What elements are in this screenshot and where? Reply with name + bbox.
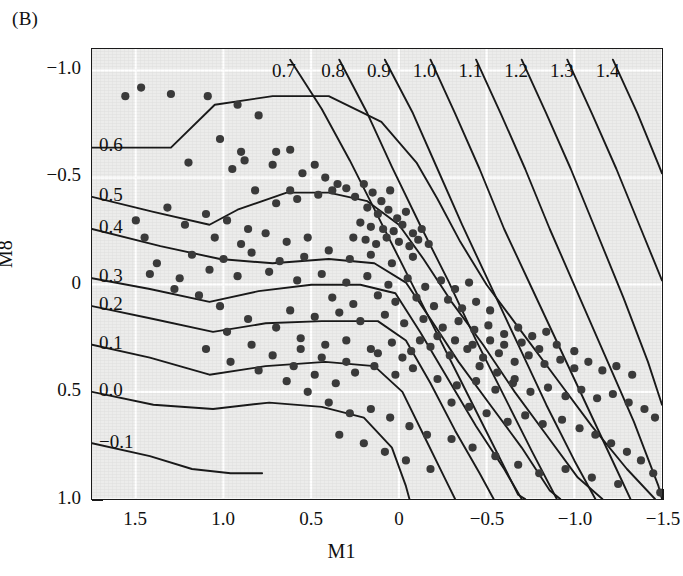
scatter-point	[283, 377, 291, 385]
x-tick-label: −1.0	[540, 508, 610, 530]
scatter-point	[458, 304, 466, 312]
y-tick-label: 0	[19, 272, 81, 294]
scatter-point	[470, 326, 478, 334]
scatter-point	[374, 349, 382, 357]
scatter-point	[453, 381, 461, 389]
scatter-point	[454, 317, 462, 325]
scatter-point	[447, 435, 455, 443]
scatter-point	[405, 242, 413, 250]
scatter-point	[390, 227, 398, 235]
scatter-point	[328, 186, 336, 194]
scatter-point	[342, 278, 350, 286]
scatter-point	[335, 308, 343, 316]
contour-line-1p3	[567, 60, 662, 281]
scatter-point	[346, 255, 354, 263]
scatter-point	[414, 236, 422, 244]
scatter-point	[226, 358, 234, 366]
scatter-point	[511, 358, 519, 366]
scatter-point	[451, 336, 459, 344]
contour-label-top: 1.2	[504, 60, 528, 82]
scatter-point	[407, 347, 415, 355]
contour-line-1p0	[430, 60, 630, 499]
scatter-point	[553, 341, 561, 349]
scatter-point	[377, 197, 385, 205]
scatter-point	[321, 173, 329, 181]
scatter-point	[202, 210, 210, 218]
contour-line-1p4	[613, 60, 662, 174]
scatter-point	[607, 439, 615, 447]
scatter-point	[356, 218, 364, 226]
scatter-point	[219, 255, 227, 263]
scatter-point	[283, 238, 291, 246]
scatter-point	[240, 156, 248, 164]
scatter-point	[211, 233, 219, 241]
scatter-point	[640, 405, 648, 413]
scatter-point	[493, 368, 501, 376]
scatter-point	[333, 180, 341, 188]
contour-label-top: 0.9	[367, 60, 391, 82]
scatter-point	[248, 341, 256, 349]
scatter-point	[297, 334, 305, 342]
scatter-point	[293, 195, 301, 203]
scatter-point	[188, 251, 196, 259]
scatter-point	[540, 360, 548, 368]
scatter-point	[121, 92, 129, 100]
scatter-point	[367, 251, 375, 259]
scatter-point	[286, 186, 294, 194]
scatter-point	[391, 371, 399, 379]
scatter-point	[304, 233, 312, 241]
scatter-point	[404, 274, 412, 282]
scatter-point	[342, 184, 350, 192]
scatter-point	[272, 148, 280, 156]
contour-label-top: 0.8	[321, 60, 345, 82]
scatter-point	[167, 90, 175, 98]
scatter-point	[349, 233, 357, 241]
scatter-point	[286, 306, 294, 314]
scatter-point	[363, 272, 371, 280]
scatter-point	[402, 456, 410, 464]
scatter-point	[535, 469, 543, 477]
scatter-point	[276, 257, 284, 265]
scatter-point	[468, 443, 476, 451]
scatter-point	[342, 358, 350, 366]
scatter-point	[146, 270, 154, 278]
scatter-point	[544, 383, 552, 391]
scatter-point	[223, 216, 231, 224]
scatter-point	[398, 221, 406, 229]
scatter-point	[416, 336, 424, 344]
scatter-point	[476, 362, 484, 370]
contour-label-left: 0.6	[99, 134, 123, 156]
scatter-point	[614, 480, 622, 488]
scatter-point	[205, 266, 213, 274]
scatter-point	[575, 424, 583, 432]
scatter-point	[570, 347, 578, 355]
scatter-point	[425, 240, 433, 248]
scatter-point	[525, 351, 533, 359]
scatter-point	[526, 388, 534, 396]
scatter-point	[184, 158, 192, 166]
scatter-point	[518, 338, 526, 346]
scatter-point	[255, 366, 263, 374]
scatter-point	[402, 208, 410, 216]
scatter-point	[511, 375, 519, 383]
scatter-point	[495, 349, 503, 357]
scatter-point	[351, 368, 359, 376]
scatter-point	[412, 293, 420, 301]
scatter-point	[325, 398, 333, 406]
y-axis-title: M8	[0, 240, 17, 268]
x-axis-title: M1	[0, 540, 683, 563]
scatter-point	[561, 465, 569, 473]
scatter-point	[356, 317, 364, 325]
scatter-point	[216, 135, 224, 143]
contour-line-1p1	[476, 60, 662, 499]
scatter-point	[290, 362, 298, 370]
scatter-point	[237, 148, 245, 156]
scatter-point	[628, 371, 636, 379]
scatter-point	[577, 386, 585, 394]
scatter-point	[409, 229, 417, 237]
scatter-point	[304, 388, 312, 396]
scatter-point	[612, 362, 620, 370]
scatter-point	[384, 206, 392, 214]
contour-line-0p1	[92, 345, 455, 499]
scatter-point	[311, 161, 319, 169]
